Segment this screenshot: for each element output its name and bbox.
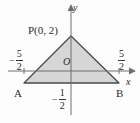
tick-label-bottom: − 1 2 [52, 88, 66, 111]
geometry-figure: P(0, 2) O y x A B − 5 2 5 2 − 1 2 [0, 0, 140, 123]
fraction-right-numerator: 5 [118, 49, 125, 59]
y-axis-label: y [73, 3, 77, 13]
point-b-label: B [116, 88, 123, 99]
fraction-bottom: 1 2 [59, 88, 66, 111]
fraction-left: 5 2 [16, 49, 23, 72]
origin-label: O [63, 57, 70, 67]
x-axis-arrow-icon [129, 68, 136, 75]
point-p-label: P(0, 2) [28, 25, 58, 36]
fraction-right: 5 2 [118, 49, 125, 72]
point-a-label: A [14, 88, 22, 99]
minus-sign-bottom: − [52, 95, 58, 105]
tick-label-right: 5 2 [118, 49, 125, 72]
minus-sign-left: − [9, 56, 15, 66]
fraction-bottom-denominator: 2 [59, 101, 66, 111]
x-axis-label: x [126, 77, 130, 87]
fraction-left-numerator: 5 [16, 49, 23, 59]
fraction-right-denominator: 2 [118, 62, 125, 72]
fraction-left-denominator: 2 [16, 62, 23, 72]
tick-label-left: − 5 2 [9, 49, 23, 72]
fraction-bottom-numerator: 1 [59, 88, 66, 98]
